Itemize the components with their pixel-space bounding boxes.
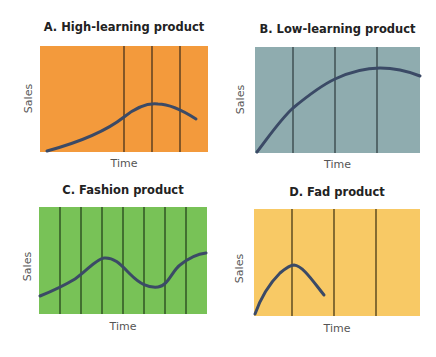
panel-a-plot (40, 46, 208, 152)
product-life-cycle-charts (0, 0, 436, 357)
panel-d-plot (254, 209, 420, 316)
panel-b-background (255, 47, 420, 153)
panel-b-plot (255, 47, 420, 153)
panel-c-plot (39, 207, 207, 314)
panel-d-background (254, 209, 420, 316)
